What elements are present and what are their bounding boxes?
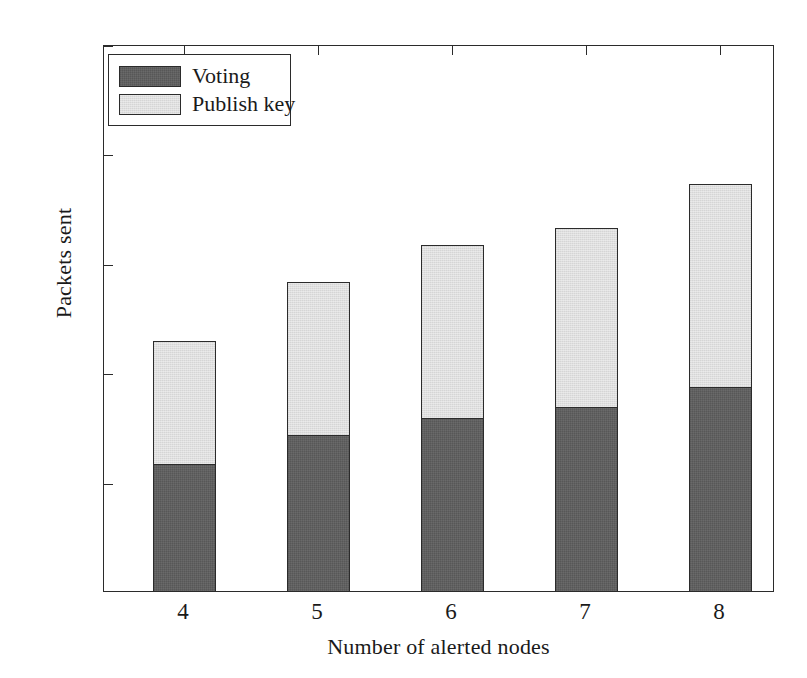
legend: Voting Publish key [108,54,291,126]
xtick-mark-top-6 [452,46,453,55]
bar-group-5[interactable] [287,282,350,591]
bar-segment-voting[interactable] [287,435,350,592]
figure-container: 25 20 15 10 5 0 [0,0,807,678]
ytick-mark-25 [104,46,113,47]
plot-area: 25 20 15 10 5 0 [103,45,774,592]
xtick-label-5: 5 [287,600,347,623]
legend-item-voting: Voting [119,62,276,90]
xtick-mark-top-5 [318,46,319,55]
bar-group-7[interactable] [555,228,618,591]
legend-label-publish-key: Publish key [192,93,295,115]
xtick-label-6: 6 [421,600,481,623]
ytick-mark-5 [104,484,113,485]
legend-item-publish-key: Publish key [119,90,276,118]
xtick-label-7: 7 [555,600,615,623]
bar-segment-publish-key[interactable] [287,282,350,437]
legend-label-voting: Voting [192,65,250,87]
bar-segment-publish-key[interactable] [689,184,752,389]
ytick-mark-10 [104,374,113,375]
ytick-mark-20 [104,155,113,156]
bar-segment-publish-key[interactable] [421,245,484,419]
legend-swatch-publish-key-icon [119,94,181,115]
bar-segment-publish-key[interactable] [153,341,216,465]
xtick-mark-top-8 [720,46,721,55]
bar-group-8[interactable] [689,184,752,591]
scan-artifact [560,0,600,10]
bar-segment-voting[interactable] [153,464,216,593]
bar-segment-voting[interactable] [555,407,618,592]
y-axis-label: Packets sent [51,133,77,393]
x-axis-label: Number of alerted nodes [103,634,774,660]
bar-segment-publish-key[interactable] [555,228,618,409]
xtick-mark-top-7 [586,46,587,55]
bar-group-4[interactable] [153,341,216,591]
bar-segment-voting[interactable] [689,387,752,592]
legend-swatch-voting-icon [119,66,181,87]
bar-segment-voting[interactable] [421,418,484,592]
ytick-mark-15 [104,265,113,266]
xtick-label-8: 8 [689,600,749,623]
xtick-label-4: 4 [153,600,213,623]
bar-group-6[interactable] [421,245,484,591]
